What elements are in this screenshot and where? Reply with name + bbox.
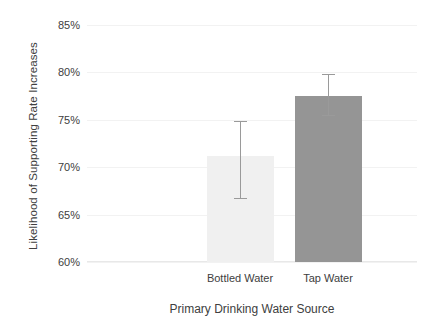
y-axis-tick-label: 85%	[40, 19, 80, 31]
bar-tap-water	[295, 96, 362, 262]
category-label: Tap Water	[258, 272, 398, 284]
errorbar-line	[328, 74, 329, 116]
gridline	[87, 25, 417, 26]
errorbar-tap-water	[318, 74, 338, 116]
gridline	[87, 72, 417, 73]
y-axis-tick-label: 60%	[40, 256, 80, 268]
y-axis-tick-label: 75%	[40, 114, 80, 126]
y-axis-tick-label: 80%	[40, 66, 80, 78]
y-axis-tick-label: 70%	[40, 161, 80, 173]
y-axis-title: Likelihood of Supporting Rate Increases	[27, 21, 39, 271]
gridline	[87, 120, 417, 121]
errorbar-cap-bottom	[322, 115, 335, 116]
errorbar-cap-top	[234, 121, 247, 122]
errorbar-line	[240, 121, 241, 200]
bar-chart: Likelihood of Supporting Rate Increases …	[0, 0, 429, 325]
x-axis-title: Primary Drinking Water Source	[87, 302, 417, 316]
errorbar-cap-top	[322, 74, 335, 75]
gridline	[87, 262, 417, 263]
y-axis-tick-label: 65%	[40, 209, 80, 221]
errorbar-bottled-water	[230, 121, 250, 200]
errorbar-cap-bottom	[234, 198, 247, 199]
plot-area	[87, 25, 417, 262]
